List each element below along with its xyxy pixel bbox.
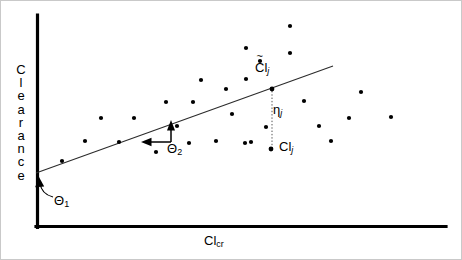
data-point	[302, 99, 306, 103]
predicted-value-label: ~Clj	[255, 60, 269, 76]
theta2-subscript: 2	[177, 147, 182, 157]
c-with-tilde: ~C	[255, 60, 264, 75]
data-point	[249, 140, 253, 144]
data-point	[83, 139, 87, 143]
y-axis-label-letter: e	[11, 169, 31, 182]
data-point	[175, 124, 179, 128]
data-point	[60, 159, 64, 163]
plot-svg	[1, 1, 462, 260]
data-point	[317, 124, 321, 128]
cl-tilde-base: C	[255, 60, 264, 75]
data-point	[187, 141, 191, 145]
data-point	[199, 78, 203, 82]
cl-tilde-subscript: j	[267, 66, 269, 76]
y-axis-label-letter: a	[11, 103, 31, 116]
y-axis-label-letter: e	[11, 89, 31, 102]
y-axis-label-letter: c	[11, 155, 31, 168]
x-axis-label-subscript: cr	[216, 239, 224, 249]
data-point	[389, 115, 393, 119]
data-point	[359, 90, 363, 94]
data-point	[243, 141, 247, 145]
clj-base: Cl	[279, 139, 291, 154]
data-point	[230, 112, 234, 116]
tilde-mark: ~	[255, 52, 264, 60]
data-point	[288, 24, 292, 28]
data-point	[154, 150, 158, 154]
observed-value-label: Clj	[279, 139, 293, 155]
x-axis-label-base: Cl	[204, 233, 216, 248]
data-point	[264, 125, 268, 129]
data-point	[244, 46, 248, 50]
theta1-label: Θ1	[54, 193, 69, 209]
theta2-label: Θ2	[167, 141, 182, 157]
data-point	[214, 139, 218, 143]
observed-point-marker	[269, 147, 274, 152]
data-point	[288, 51, 292, 55]
theta2-symbol: Θ	[167, 141, 177, 156]
clj-subscript: j	[291, 145, 293, 155]
y-axis-label: C l e a r a n c e	[11, 63, 31, 182]
eta-subscript: j	[280, 108, 282, 118]
data-point	[244, 77, 248, 81]
data-point	[99, 116, 103, 120]
data-point	[132, 116, 136, 120]
predicted-point-marker	[270, 87, 275, 92]
data-point	[191, 100, 195, 104]
data-point	[329, 139, 333, 143]
x-axis-label: Clcr	[204, 233, 224, 249]
regression-line	[36, 66, 333, 173]
scatter-points	[60, 24, 393, 163]
residual-label: ηj	[273, 102, 282, 118]
theta1-subscript: 1	[64, 199, 69, 209]
figure-canvas: C l e a r a n c e Clcr Θ1 Θ2 ~Clj ηj Clj	[0, 0, 462, 260]
data-point	[347, 116, 351, 120]
theta1-symbol: Θ	[54, 193, 64, 208]
data-point	[164, 100, 168, 104]
data-point	[117, 140, 121, 144]
data-point	[224, 87, 228, 91]
